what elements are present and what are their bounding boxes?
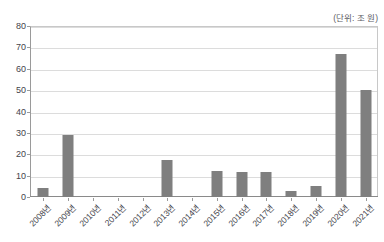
y-axis: 01020304050607080 xyxy=(0,26,26,197)
bar-slot xyxy=(328,26,353,197)
x-tick-label: 2011년 xyxy=(103,203,128,228)
x-tick-mark xyxy=(242,198,243,201)
bar xyxy=(261,172,272,197)
bar-slot xyxy=(205,26,230,197)
y-tick-mark xyxy=(27,69,30,70)
y-tick-mark xyxy=(27,133,30,134)
bar xyxy=(360,90,371,197)
x-tick-mark xyxy=(291,198,292,201)
y-tick-mark xyxy=(27,112,30,113)
bar-slot xyxy=(155,26,180,197)
x-tick-label: 2021년 xyxy=(351,203,376,228)
bar-slot xyxy=(130,26,155,197)
x-tick-mark xyxy=(68,198,69,201)
x-tick-label: 2020년 xyxy=(326,203,351,228)
bar-slot xyxy=(353,26,378,197)
bar xyxy=(63,135,74,197)
y-tick-mark xyxy=(27,26,30,27)
bar-slot xyxy=(304,26,329,197)
bar-slot xyxy=(105,26,130,197)
bar xyxy=(236,172,247,197)
bar-slot xyxy=(254,26,279,197)
y-tick-label: 40 xyxy=(0,107,26,116)
x-tick-mark xyxy=(341,198,342,201)
bar-slot xyxy=(31,26,56,197)
y-tick-label: 80 xyxy=(0,22,26,31)
x-tick-mark xyxy=(316,198,317,201)
x-tick-label: 2018년 xyxy=(276,203,301,228)
bars-layer xyxy=(31,26,378,197)
bar-slot xyxy=(180,26,205,197)
y-tick-label: 20 xyxy=(0,150,26,159)
y-tick-mark xyxy=(27,176,30,177)
y-tick-mark xyxy=(27,47,30,48)
bar-chart-figure: (단위: 조 원) 01020304050607080 2008년2009년20… xyxy=(0,0,384,242)
bar-slot xyxy=(56,26,81,197)
y-tick-label: 60 xyxy=(0,64,26,73)
x-tick-mark xyxy=(43,198,44,201)
x-tick-label: 2017년 xyxy=(251,203,276,228)
x-axis: 2008년2009년2010년2011년2012년2013년2014년2015년… xyxy=(31,198,378,242)
y-tick-mark xyxy=(27,90,30,91)
x-tick-label: 2019년 xyxy=(301,203,326,228)
x-tick-label: 2015년 xyxy=(202,203,227,228)
bar xyxy=(211,171,222,197)
x-tick-label: 2012년 xyxy=(127,203,152,228)
chart-title xyxy=(0,0,384,5)
x-tick-label: 2016년 xyxy=(227,203,252,228)
y-tick-label: 70 xyxy=(0,43,26,52)
x-tick-mark xyxy=(118,198,119,201)
y-tick-mark xyxy=(27,197,30,198)
bar xyxy=(286,191,297,197)
x-tick-mark xyxy=(192,198,193,201)
x-tick-mark xyxy=(93,198,94,201)
x-tick-mark xyxy=(217,198,218,201)
x-tick-mark xyxy=(266,198,267,201)
x-tick-label: 2010년 xyxy=(78,203,103,228)
bar-slot xyxy=(81,26,106,197)
bar-slot xyxy=(279,26,304,197)
bar xyxy=(162,160,173,197)
x-tick-mark xyxy=(366,198,367,201)
bar xyxy=(311,186,322,197)
bar-slot xyxy=(229,26,254,197)
y-tick-label: 30 xyxy=(0,128,26,137)
x-tick-label: 2008년 xyxy=(28,203,53,228)
x-tick-label: 2009년 xyxy=(53,203,78,228)
x-tick-mark xyxy=(143,198,144,201)
unit-annotation: (단위: 조 원) xyxy=(333,11,378,23)
x-tick-label: 2013년 xyxy=(152,203,177,228)
y-tick-label: 50 xyxy=(0,86,26,95)
bar xyxy=(38,188,49,197)
y-tick-label: 0 xyxy=(0,193,26,202)
bar xyxy=(335,54,346,197)
y-tick-label: 10 xyxy=(0,171,26,180)
x-tick-mark xyxy=(167,198,168,201)
y-tick-mark xyxy=(27,154,30,155)
x-tick-label: 2014년 xyxy=(177,203,202,228)
